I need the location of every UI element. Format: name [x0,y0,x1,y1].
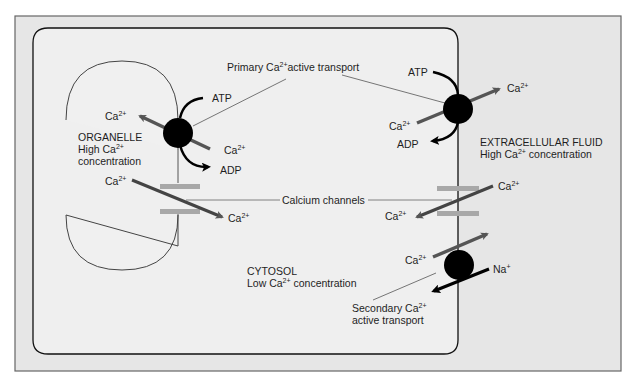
organelle-pump [163,118,193,148]
plasma-adp: ADP [397,138,419,150]
organelle-channel-bottom [160,209,200,214]
secondary-transport-label: Secondary Ca2+ active transport [352,302,427,326]
extracellular-label: EXTRACELLULAR FLUID High Ca2+ concentrat… [480,136,603,160]
calcium-channels-label: Calcium channels [282,194,365,206]
organelle-channel-ca-in: Ca2+ [105,175,126,187]
plasma-atp: ATP [408,66,428,78]
plasma-channel-ca-out: Ca2+ [498,180,519,192]
organelle-label: ORGANELLE High Ca2+ concentration [78,131,142,167]
organelle-channel-top [160,184,200,189]
cytosol-label: CYTOSOL Low Ca2+ concentration [247,265,357,289]
exchanger-ca: Ca2+ [405,254,426,266]
plasma-channel-top [437,186,479,191]
organelle-adp: ADP [220,164,242,176]
plasma-membrane-pump [443,94,473,124]
primary-transport-label: Primary Ca2+active transport [227,61,359,73]
organelle-ca-in: Ca2+ [224,144,245,156]
plasma-channel-ca-in: Ca2+ [385,210,406,222]
organelle-channel-ca-out: Ca2+ [228,212,249,224]
calcium-transport-diagram [0,0,635,386]
plasma-ca-in: Ca2+ [389,120,410,132]
plasma-channel-bottom [437,211,479,216]
plasma-ca-out: Ca2+ [507,82,528,94]
organelle-ca-out: Ca2+ [105,110,126,122]
exchanger-na: Na+ [493,263,511,275]
organelle-atp: ATP [212,92,232,104]
